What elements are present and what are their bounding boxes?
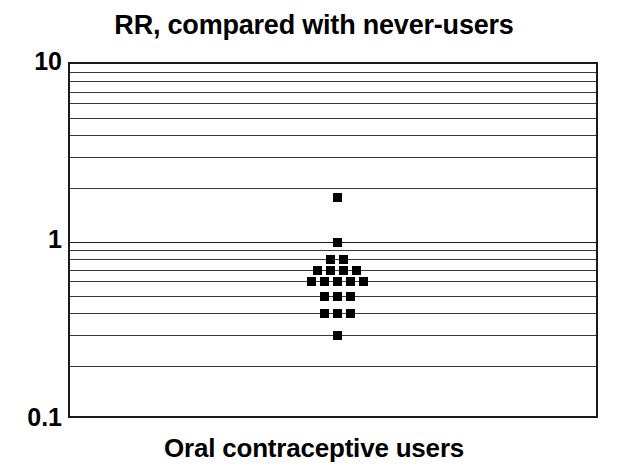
data-point-marker [359,277,368,286]
data-point-marker [313,266,322,275]
data-point-marker [339,255,348,264]
data-point-marker [346,277,355,286]
gridline-minor [70,92,596,93]
data-point-marker [326,266,335,275]
gridline-minor [70,157,596,158]
y-axis-tick-label: 1 [48,227,62,252]
gridline-minor [70,72,596,73]
data-point-marker [333,277,342,286]
data-point-marker [326,255,335,264]
y-axis-tick-label: 10 [34,49,62,74]
data-point-marker [333,292,342,301]
data-point-marker [333,331,342,340]
data-point-marker [333,193,342,202]
chart-title: RR, compared with never-users [0,8,628,42]
gridline-minor [70,250,596,251]
data-point-marker [339,266,348,275]
data-point-marker [346,309,355,318]
data-point-marker [333,309,342,318]
gridline-minor [70,103,596,104]
x-axis-label: Oral contraceptive users [0,432,628,464]
gridline-minor [70,366,596,367]
plot-area [68,62,598,418]
data-point-marker [346,292,355,301]
data-point-marker [352,266,361,275]
gridline-minor [70,118,596,119]
y-axis-tick-label: 0.1 [27,405,62,430]
gridline-minor [70,81,596,82]
gridline-minor [70,188,596,189]
data-point-marker [333,238,342,247]
data-point-marker [320,277,329,286]
data-point-marker [307,277,316,286]
chart-page: RR, compared with never-users 1010.1 Ora… [0,0,628,469]
data-point-marker [320,309,329,318]
data-point-marker [320,292,329,301]
gridline-minor [70,135,596,136]
